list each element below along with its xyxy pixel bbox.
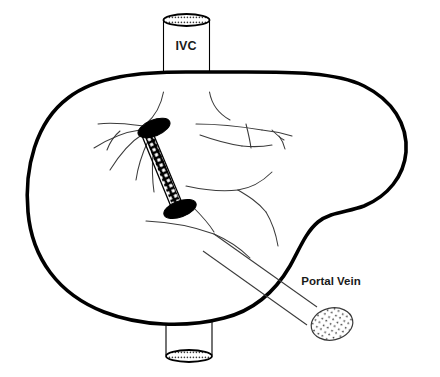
ivc-label: IVC <box>176 39 197 53</box>
tips-diagram-canvas: IVC Portal Vein <box>0 0 440 377</box>
ivc-bottom-lumen-ellipse <box>166 350 212 362</box>
portal-vein-label: Portal Vein <box>301 275 360 287</box>
portal-vein-lumen-ellipse <box>308 304 356 344</box>
anatomy-illustration: IVC Portal Vein <box>0 0 440 377</box>
ivc-top-lumen-ellipse <box>164 14 210 26</box>
